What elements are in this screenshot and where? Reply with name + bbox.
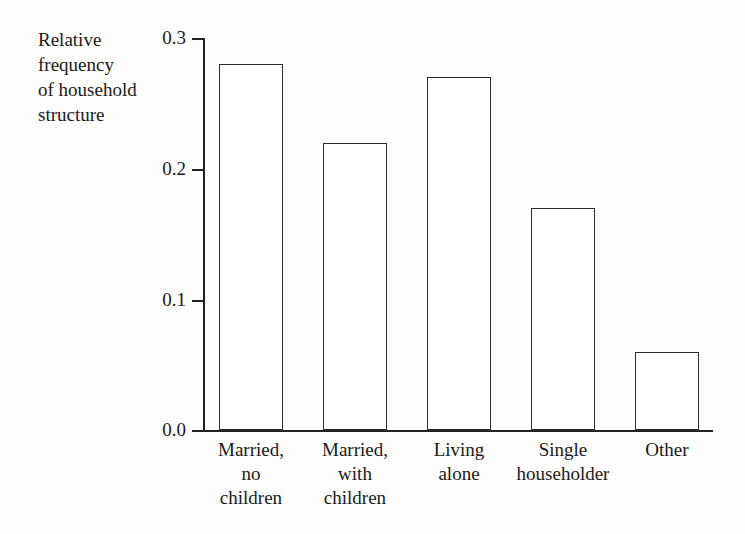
tick-mark (192, 38, 203, 40)
y-tick-label: 0.1 (130, 290, 186, 309)
bar-married-no-children (219, 64, 283, 430)
x-category-label-4: Other (601, 438, 733, 462)
bar-married-with-children (323, 143, 387, 430)
bar-other (635, 352, 699, 430)
bar-single-householder (531, 208, 595, 430)
bar-living-alone (427, 77, 491, 430)
tick-mark (192, 300, 203, 302)
tick-mark (192, 169, 203, 171)
y-tick-label: 0.3 (130, 28, 186, 47)
x-axis-line (203, 430, 713, 432)
tick-mark (192, 430, 203, 432)
y-tick-label: 0.0 (130, 420, 186, 439)
y-axis-line (203, 38, 205, 431)
bar-chart-figure: Relative frequency of household structur… (0, 0, 745, 534)
y-tick-label: 0.2 (130, 159, 186, 178)
